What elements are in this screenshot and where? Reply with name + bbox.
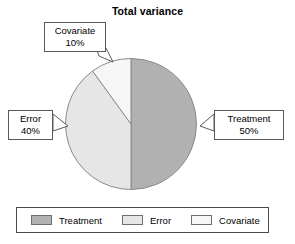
legend-item-error: Error <box>122 215 171 226</box>
callout-error-value: 40% <box>13 125 48 137</box>
legend-item-covariate: Covariate <box>191 215 260 226</box>
callout-treatment-label: Treatment <box>219 113 279 125</box>
callout-covariate-value: 10% <box>49 37 101 49</box>
legend-label-treatment: Treatment <box>59 215 102 226</box>
callout-treatment: Treatment 50% <box>214 110 284 140</box>
legend-item-treatment: Treatment <box>31 215 102 226</box>
legend-label-error: Error <box>150 215 171 226</box>
legend-swatch-treatment <box>31 215 52 225</box>
callout-error-label: Error <box>13 113 48 125</box>
legend-swatch-covariate <box>191 215 212 225</box>
chart-legend: Treatment Error Covariate <box>16 207 269 233</box>
legend-label-covariate: Covariate <box>219 215 260 226</box>
callout-pointer-treatment <box>200 114 214 131</box>
callout-covariate-label: Covariate <box>49 25 101 37</box>
legend-swatch-error <box>122 215 143 225</box>
callout-treatment-value: 50% <box>219 125 279 137</box>
callout-error: Error 40% <box>8 110 53 140</box>
pie-chart-figure: Total variance Covariate 10% Error 40% T… <box>0 0 295 244</box>
pie-slice-group <box>66 59 197 190</box>
pie-slice-treatment <box>131 59 197 190</box>
callout-covariate: Covariate 10% <box>44 22 106 52</box>
